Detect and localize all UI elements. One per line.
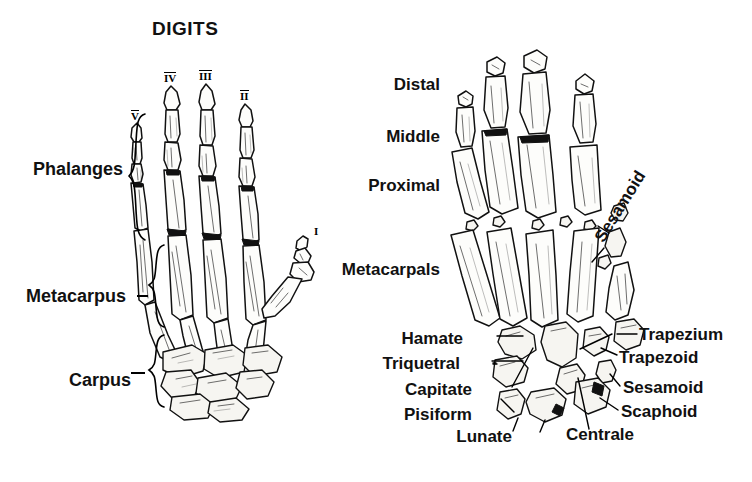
figure-canvas: DIGITS bbox=[0, 0, 752, 482]
digit-numeral-i: I bbox=[314, 226, 318, 238]
region-label-metacarpus: Metacarpus bbox=[26, 287, 126, 305]
right-metacarpals bbox=[451, 228, 599, 327]
right-sesamoid-bones-mcp bbox=[466, 216, 596, 231]
left-carpus bbox=[161, 345, 282, 422]
left-digit-ii bbox=[239, 104, 266, 325]
brace-carpus bbox=[147, 333, 171, 409]
bone-label-centrale: Centrale bbox=[566, 426, 634, 443]
right-proximal-phalanges bbox=[452, 129, 601, 219]
region-label-phalanges: Phalanges bbox=[33, 160, 123, 178]
bone-label-lunate: Lunate bbox=[456, 428, 512, 445]
bone-label-sesamoid: Sesamoid bbox=[623, 379, 703, 396]
row-label-metacarpals: Metacarpals bbox=[342, 261, 440, 278]
bone-label-pisiform: Pisiform bbox=[404, 406, 472, 423]
brace-metacarpus bbox=[147, 243, 171, 329]
region-label-carpus: Carpus bbox=[69, 371, 131, 389]
metacarpus-leader-line bbox=[137, 295, 148, 297]
bone-label-hamate: Hamate bbox=[402, 330, 463, 347]
row-label-distal: Distal bbox=[394, 76, 440, 93]
bone-label-triquetral: Triquetral bbox=[383, 355, 460, 372]
digit-numeral-iv: IV bbox=[164, 72, 176, 85]
row-label-proximal: Proximal bbox=[368, 177, 440, 194]
left-digit-i-thumb bbox=[262, 236, 314, 318]
row-label-middle: Middle bbox=[386, 128, 440, 145]
bone-label-trapezoid: Trapezoid bbox=[619, 349, 698, 366]
brace-phalanges bbox=[127, 112, 153, 242]
digit-numeral-ii: II bbox=[240, 90, 249, 103]
left-digit-iii bbox=[199, 84, 228, 323]
bone-label-capitate: Capitate bbox=[405, 381, 472, 398]
carpus-leader-line bbox=[131, 372, 145, 374]
right-hand-skeleton-drawing bbox=[451, 50, 644, 432]
digit-numeral-iii: III bbox=[199, 70, 212, 83]
bone-label-scaphoid: Scaphoid bbox=[621, 403, 698, 420]
bone-label-trapezium: Trapezium bbox=[639, 326, 723, 343]
